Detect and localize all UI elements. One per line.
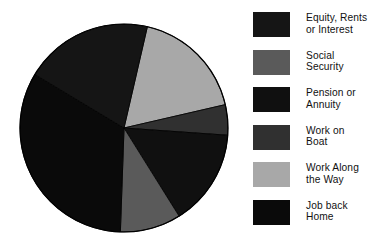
- legend-label: Work Along the Way: [306, 161, 359, 185]
- legend-label: Social Security: [306, 49, 344, 73]
- pie-slice-group: [20, 24, 228, 232]
- legend-item[interactable]: Pension or Annuity: [253, 86, 391, 124]
- chart-legend: Equity, Rents or InterestSocial Security…: [253, 11, 391, 247]
- legend-swatch: [253, 200, 290, 225]
- legend-label: Work on Boat: [306, 124, 344, 148]
- legend-item[interactable]: Job back Home: [253, 199, 391, 237]
- pie-chart-figure: Equity, Rents or InterestSocial Security…: [0, 0, 391, 252]
- legend-item[interactable]: Work on Boat: [253, 124, 391, 162]
- legend-item[interactable]: Work Along the Way: [253, 161, 391, 199]
- legend-label: Equity, Rents or Interest: [306, 11, 367, 35]
- pie-chart-svg: [0, 0, 250, 252]
- legend-item[interactable]: Equity, Rents or Interest: [253, 11, 391, 49]
- legend-swatch: [253, 12, 290, 37]
- legend-swatch: [253, 50, 290, 75]
- legend-swatch: [253, 87, 290, 112]
- legend-label: Job back Home: [306, 199, 348, 223]
- legend-swatch: [253, 162, 290, 187]
- legend-label: Pension or Annuity: [306, 86, 356, 110]
- pie-plot-area: [0, 0, 250, 252]
- legend-item[interactable]: Social Security: [253, 49, 391, 87]
- legend-swatch: [253, 125, 290, 150]
